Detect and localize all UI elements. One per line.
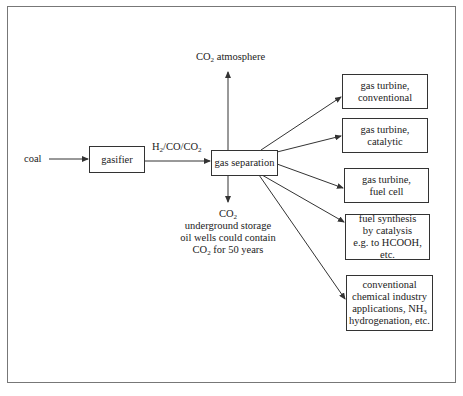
node-gas-turbine-catalytic: gas turbine,catalytic: [342, 118, 428, 153]
node-co2-atmosphere: CO2 atmosphere: [196, 51, 265, 63]
node-gas-turbine-conventional: gas turbine,conventional: [342, 74, 428, 109]
arrow-to-gt-fuel-cell: [277, 164, 343, 188]
edge-label-syngas: H2/CO/CO2: [152, 141, 202, 153]
node-gas-turbine-fuel-cell: gas turbine,fuel cell: [344, 168, 429, 203]
arrow-to-gt-catalytic: [277, 136, 341, 152]
node-fuel-synthesis: fuel synthesisby catalysise.g. to HCOOH,…: [345, 214, 430, 260]
node-chemical-industry: conventional chemical industry applicati…: [346, 275, 433, 331]
arrow-to-gt-conventional: [261, 97, 341, 150]
node-coal: coal: [24, 153, 42, 165]
node-co2-storage: CO2 underground storage oil wells could …: [168, 208, 288, 256]
node-gas-separation-label: gas separation: [215, 157, 275, 169]
node-gasifier: gasifier: [89, 146, 145, 173]
node-gas-separation: gas separation: [211, 150, 278, 176]
node-gasifier-label: gasifier: [101, 154, 133, 166]
